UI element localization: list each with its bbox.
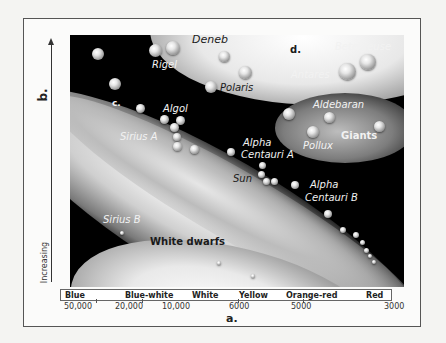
label-alpha-centauri-a-line1: Alpha — [243, 137, 271, 148]
star-marker-sirius-b — [120, 231, 124, 235]
star-marker-rigel — [149, 44, 162, 57]
color-class-white: White — [192, 290, 219, 301]
color-class-blue: Blue — [65, 290, 85, 301]
star-marker — [92, 48, 104, 60]
star-marker-aldebaran — [324, 112, 335, 123]
star-marker — [190, 145, 199, 154]
star-marker-sun — [258, 171, 265, 178]
star-marker — [364, 248, 369, 253]
label-sun: Sun — [233, 173, 252, 184]
label-pollux: Pollux — [303, 140, 333, 151]
star-marker-pollux — [307, 126, 319, 138]
color-class-bar: Blue Blue-white White Yellow Orange-red … — [60, 289, 392, 301]
star-marker — [353, 232, 359, 238]
star-marker-betelgeuse — [360, 54, 376, 70]
star-marker-deneb — [166, 41, 180, 55]
tick-label-5000: 5000 — [291, 302, 311, 311]
label-giants: Giants — [341, 130, 377, 141]
label-sirius-b: Sirius B — [103, 214, 141, 225]
star-marker — [173, 142, 182, 151]
tick-label-50000: 50,000 — [64, 302, 92, 311]
star-marker — [109, 78, 121, 90]
color-class-yellow: Yellow — [239, 290, 268, 301]
label-aldebaran: Aldebaran — [313, 99, 364, 110]
tick-label-20000: 20,000 — [115, 302, 143, 311]
label-deneb: Deneb — [192, 35, 228, 45]
star-marker — [239, 66, 252, 79]
y-axis-line — [51, 44, 52, 282]
label-white-dwarfs: White dwarfs — [150, 236, 225, 247]
label-antares: Antares — [291, 69, 330, 80]
label-rigel: Rigel — [152, 59, 177, 70]
label-polaris: Polaris — [220, 82, 253, 93]
tick-label-10000: 10,000 — [162, 302, 190, 311]
star-marker — [324, 210, 332, 218]
star-marker — [219, 51, 230, 62]
label-alpha-centauri-b-line2: Centauri B — [305, 192, 358, 203]
label-algol: Algol — [163, 103, 188, 114]
star-marker-alpha-centauri-b — [291, 181, 299, 189]
star-marker — [340, 227, 346, 233]
y-axis-direction-label: Increasing — [40, 233, 49, 293]
star-marker — [136, 104, 145, 113]
star-marker-antares — [339, 63, 356, 80]
star-marker — [259, 162, 266, 169]
color-class-orange-red: Orange-red — [286, 290, 337, 301]
star-marker — [283, 108, 295, 120]
region-marker-main-sequence: c. — [112, 98, 121, 108]
x-axis-letter-label: a. — [226, 312, 238, 325]
star-marker — [251, 274, 255, 278]
star-marker-sirius-a — [173, 133, 181, 141]
label-alpha-centauri-a-line2: Centauri A — [241, 149, 294, 160]
y-axis-letter-label: b. — [36, 80, 50, 110]
hr-plot-area: Deneb Rigel Polaris d. Betelgeuse Antare… — [70, 35, 404, 287]
star-marker — [368, 254, 372, 258]
star-marker — [263, 178, 270, 185]
star-marker-algol — [160, 115, 169, 124]
label-betelgeuse: Betelgeuse — [335, 41, 391, 52]
region-marker-supergiants: d. — [290, 44, 301, 55]
tick-label-3000: 3000 — [384, 302, 404, 311]
label-sirius-a: Sirius A — [120, 131, 158, 142]
tick-mark — [96, 299, 97, 303]
star-marker — [372, 260, 376, 264]
star-marker-polaris — [205, 81, 217, 93]
star-marker — [170, 123, 179, 132]
star-marker — [271, 178, 278, 185]
color-class-red: Red — [366, 290, 383, 301]
color-class-blue-white: Blue-white — [125, 290, 173, 301]
tick-label-6000: 6000 — [229, 302, 249, 311]
star-marker — [360, 240, 365, 245]
star-marker — [217, 261, 221, 265]
star-marker-alpha-centauri-a — [227, 148, 235, 156]
label-alpha-centauri-b-line1: Alpha — [310, 179, 338, 190]
